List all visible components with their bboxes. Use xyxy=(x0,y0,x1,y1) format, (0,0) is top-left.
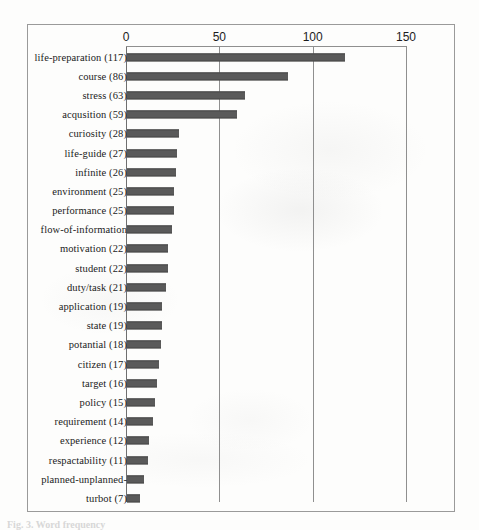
category-label: infinite (26) xyxy=(75,167,127,178)
bar-row: application (19) xyxy=(0,297,479,316)
bar xyxy=(127,341,161,349)
bar xyxy=(127,322,162,330)
category-label: motivation (22) xyxy=(60,244,127,255)
bar-row: requirement (14) xyxy=(0,413,479,432)
bar xyxy=(127,418,153,426)
bar xyxy=(127,226,172,234)
bar-row: experience (12) xyxy=(0,432,479,451)
category-label: life-guide (27) xyxy=(65,148,127,159)
bar-row: state (19) xyxy=(0,317,479,336)
bar-track xyxy=(127,240,427,259)
bar xyxy=(127,456,148,464)
bar xyxy=(127,91,245,99)
bar xyxy=(127,130,179,138)
bar xyxy=(127,53,345,61)
bar-track xyxy=(127,317,427,336)
bar xyxy=(127,283,166,291)
category-label: potantial (18) xyxy=(69,340,127,351)
bar-track xyxy=(127,336,427,355)
bar xyxy=(127,379,157,387)
figure-caption: Fig. 3. Word frequency xyxy=(7,519,105,530)
bar-row: respactability (11) xyxy=(0,451,479,470)
bar-track xyxy=(127,163,427,182)
bar-row: citizen (17) xyxy=(0,355,479,374)
bar-track xyxy=(127,278,427,297)
bar-row: turbot (7) xyxy=(0,489,479,508)
category-label: planned-unplanned- xyxy=(41,474,127,485)
bar-track xyxy=(127,297,427,316)
bar-row: potantial (18) xyxy=(0,336,479,355)
bar-row: course (86) xyxy=(0,67,479,86)
bar xyxy=(127,111,237,119)
category-label: stress (63) xyxy=(82,90,127,101)
bar xyxy=(127,149,177,157)
bar-track xyxy=(127,48,427,67)
bar-row: motivation (22) xyxy=(0,240,479,259)
bar xyxy=(127,475,144,483)
bar-row: planned-unplanned- xyxy=(0,470,479,489)
bar-row: acqusition (59) xyxy=(0,106,479,125)
bar-track xyxy=(127,202,427,221)
plot-top-rule xyxy=(126,46,407,47)
bar-track xyxy=(127,125,427,144)
bar-row: student (22) xyxy=(0,259,479,278)
category-label: respactability (11) xyxy=(49,455,127,466)
bar-track xyxy=(127,221,427,240)
bar-track xyxy=(127,144,427,163)
bar-row: curiosity (28) xyxy=(0,125,479,144)
category-label: student (22) xyxy=(75,263,127,274)
bar xyxy=(127,187,174,195)
category-label: life-preparation (117) xyxy=(35,52,127,63)
bar-track xyxy=(127,393,427,412)
bar xyxy=(127,360,159,368)
bar-track xyxy=(127,106,427,125)
bar-row: environment (25) xyxy=(0,182,479,201)
x-axis-tick-label: 0 xyxy=(123,30,130,44)
category-label: requirement (14) xyxy=(55,416,127,427)
bar-track xyxy=(127,451,427,470)
category-label: flow-of-information xyxy=(41,225,127,236)
bar-track xyxy=(127,259,427,278)
bar-chart: 050100150 life-preparation (117)course (… xyxy=(0,0,479,530)
bar-row: target (16) xyxy=(0,374,479,393)
bar-row: performance (25) xyxy=(0,202,479,221)
bar-track xyxy=(127,413,427,432)
bar xyxy=(127,302,162,310)
bar-track xyxy=(127,86,427,105)
x-axis-tick-label: 50 xyxy=(213,30,226,44)
category-label: performance (25) xyxy=(52,205,127,216)
bar-rows: life-preparation (117)course (86)stress … xyxy=(0,48,479,509)
category-label: state (19) xyxy=(87,320,127,331)
category-label: citizen (17) xyxy=(78,359,127,370)
scanned-page-background: 050100150 life-preparation (117)course (… xyxy=(0,0,479,530)
bar xyxy=(127,245,168,253)
bar-track xyxy=(127,182,427,201)
category-label: application (19) xyxy=(59,301,127,312)
bar-track xyxy=(127,489,427,508)
bar xyxy=(127,398,155,406)
bar xyxy=(127,494,140,502)
category-label: environment (25) xyxy=(52,186,127,197)
category-label: policy (15) xyxy=(80,397,127,408)
x-axis-tick-label: 150 xyxy=(396,30,416,44)
bar-row: life-guide (27) xyxy=(0,144,479,163)
bar-row: flow-of-information xyxy=(0,221,479,240)
bar-track xyxy=(127,432,427,451)
category-label: duty/task (21) xyxy=(67,282,127,293)
category-label: target (16) xyxy=(82,378,127,389)
bar xyxy=(127,168,176,176)
x-axis-tick-label: 100 xyxy=(303,30,323,44)
bar xyxy=(127,437,149,445)
category-label: curiosity (28) xyxy=(69,129,127,140)
bar-row: policy (15) xyxy=(0,393,479,412)
bar-row: stress (63) xyxy=(0,86,479,105)
bar xyxy=(127,264,168,272)
bar-row: duty/task (21) xyxy=(0,278,479,297)
bar-track xyxy=(127,470,427,489)
category-label: experience (12) xyxy=(60,436,127,447)
category-label: course (86) xyxy=(78,71,127,82)
bar-track xyxy=(127,355,427,374)
bar-track xyxy=(127,374,427,393)
bar xyxy=(127,72,288,80)
bar xyxy=(127,207,174,215)
